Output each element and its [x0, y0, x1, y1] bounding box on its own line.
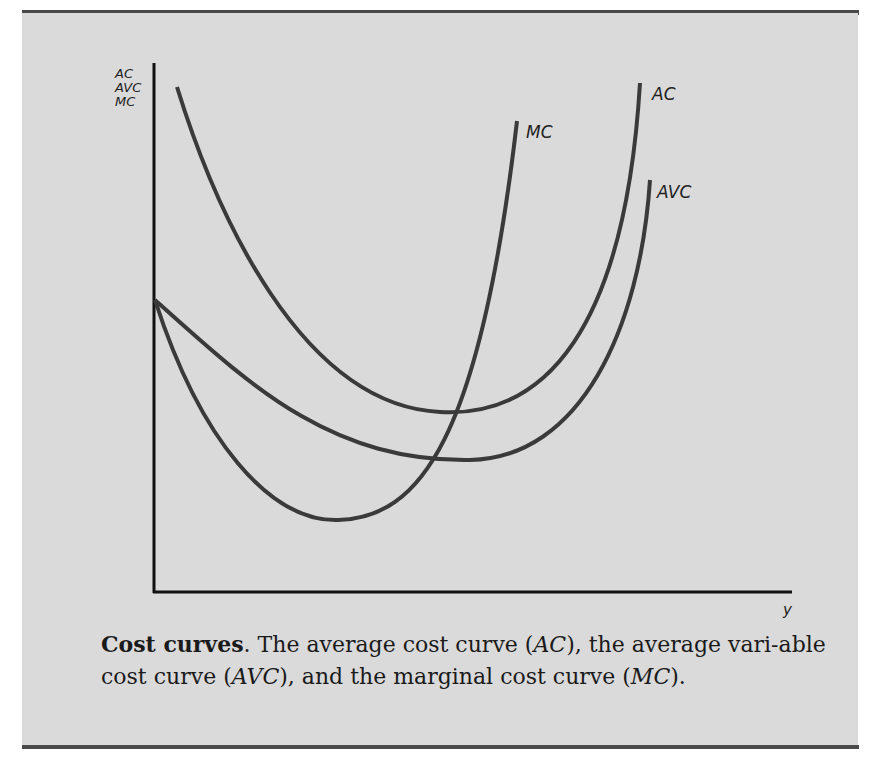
y-axis-label-mc: MC: [115, 94, 136, 109]
ac-curve-label: AC: [651, 84, 676, 104]
caption-math-avc: AVC: [232, 664, 280, 689]
caption-text-4: ).: [670, 664, 686, 689]
figure-caption: Cost curves. The average cost curve (AC)…: [101, 628, 841, 693]
x-axis-label: y: [782, 601, 793, 619]
caption-text-3: ), and the marginal cost curve (: [279, 664, 631, 689]
mc-curve-label: MC: [526, 122, 553, 142]
avc-curve-label: AVC: [656, 182, 691, 202]
ac-curve: [177, 83, 640, 412]
y-axis-label-avc: AVC: [114, 80, 142, 95]
caption-math-mc: MC: [631, 664, 670, 689]
caption-math-ac: AC: [533, 632, 566, 657]
caption-title: Cost curves: [101, 631, 244, 657]
caption-text-1: . The average cost curve (: [244, 632, 534, 657]
y-axis-label-ac: AC: [114, 66, 134, 81]
